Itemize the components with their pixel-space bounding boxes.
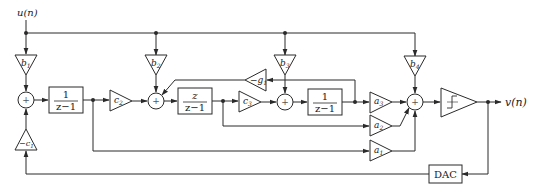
delta-sigma-modulator-diagram: u(n) b1 b2 b3 b4 + + — [0, 0, 538, 193]
gain-b1: b1 — [15, 55, 37, 75]
svg-text:z−1: z−1 — [185, 102, 205, 113]
svg-text:+: + — [281, 97, 289, 107]
quantizer — [441, 88, 477, 117]
output-label: v(n) — [505, 96, 527, 109]
gain-a2: a2 — [370, 115, 392, 136]
dac-block: DAC — [429, 165, 462, 183]
summer-1: + — [18, 92, 34, 108]
gain-c3: c3 — [239, 91, 261, 112]
svg-text:+: + — [22, 95, 30, 105]
gain-c2: c2 — [110, 90, 132, 111]
summer-3: + — [277, 94, 293, 110]
gain-a1: a1 — [370, 140, 392, 161]
svg-text:z−1: z−1 — [56, 101, 76, 112]
input-bus — [24, 20, 415, 56]
integrator-1: 1 z−1 — [49, 87, 83, 113]
svg-text:+: + — [152, 96, 160, 106]
svg-text:z: z — [191, 90, 198, 101]
gain-neg-c1: −c1 — [15, 129, 37, 150]
gain-b3: b3 — [274, 55, 296, 75]
gain-b4: b4 — [404, 56, 426, 76]
integrator-3: 1 z−1 — [308, 89, 342, 115]
svg-text:+: + — [411, 97, 419, 107]
svg-text:z−1: z−1 — [315, 103, 335, 114]
svg-text:1: 1 — [63, 89, 69, 100]
input-label: u(n) — [17, 7, 38, 18]
integrator-2: z z−1 — [178, 88, 212, 114]
summer-4: + — [407, 94, 423, 110]
gain-b2: b2 — [145, 55, 167, 75]
svg-text:DAC: DAC — [434, 169, 457, 180]
summer-2: + — [148, 93, 164, 109]
gain-neg-g1: −g1 — [245, 69, 267, 91]
svg-text:1: 1 — [322, 91, 328, 102]
gain-a3: a3 — [370, 92, 392, 113]
